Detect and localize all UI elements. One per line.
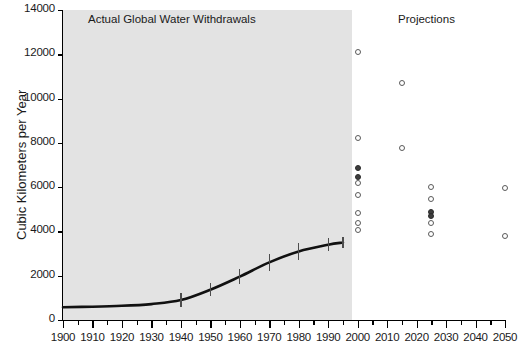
projection-data-point: [428, 213, 434, 219]
x-tick-label: 2050: [485, 331, 518, 343]
water-withdrawals-chart: Actual Global Water Withdrawals Projecti…: [0, 0, 518, 346]
projection-data-point: [355, 210, 361, 216]
y-tick-mark: [58, 54, 63, 55]
projection-data-point: [355, 165, 361, 171]
x-tick-mark-minor: [431, 321, 432, 325]
x-tick-mark-major: [122, 321, 123, 328]
y-tick-mark: [58, 187, 63, 188]
y-tick-mark: [58, 143, 63, 144]
x-tick-mark-minor: [402, 321, 403, 325]
x-tick-mark-minor: [166, 321, 167, 325]
error-bar: [342, 237, 343, 248]
x-tick-mark-minor: [225, 321, 226, 325]
x-tick-mark-minor: [137, 321, 138, 325]
projection-data-point: [355, 227, 361, 233]
x-tick-mark-major: [181, 321, 182, 328]
error-bar: [328, 238, 329, 251]
x-tick-mark-minor: [196, 321, 197, 325]
error-bar: [180, 293, 181, 306]
projection-data-point: [355, 180, 361, 186]
projection-data-point: [355, 135, 361, 141]
x-tick-mark-major: [328, 321, 329, 328]
x-tick-mark-major: [476, 321, 477, 328]
y-tick-label: 12000: [7, 46, 55, 58]
projection-data-point: [428, 184, 434, 190]
projection-data-point: [399, 145, 405, 151]
y-tick-label: 14000: [7, 2, 55, 14]
x-tick-mark-minor: [313, 321, 314, 325]
y-tick-mark: [58, 99, 63, 100]
x-tick-mark-minor: [372, 321, 373, 325]
projection-data-point: [428, 196, 434, 202]
x-tick-mark-major: [299, 321, 300, 328]
y-tick-mark: [58, 276, 63, 277]
x-tick-mark-minor: [461, 321, 462, 325]
projection-data-point: [428, 231, 434, 237]
y-tick-mark: [58, 231, 63, 232]
projection-data-point: [399, 80, 405, 86]
projection-data-point: [502, 185, 508, 191]
projection-data-point: [502, 233, 508, 239]
projection-region-title: Projections: [398, 13, 455, 25]
x-tick-mark-minor: [78, 321, 79, 325]
x-tick-mark-major: [210, 321, 211, 328]
x-tick-mark-major: [417, 321, 418, 328]
error-bar: [210, 283, 211, 296]
actual-region-shading: [63, 10, 352, 320]
x-tick-mark-minor: [343, 321, 344, 325]
x-tick-mark-minor: [284, 321, 285, 325]
y-axis-line: [62, 10, 63, 321]
y-tick-mark: [58, 10, 63, 11]
x-tick-mark-major: [92, 321, 93, 328]
y-axis-title: Cubic Kilometers per Year: [14, 90, 29, 240]
y-tick-label: 8000: [7, 135, 55, 147]
x-tick-mark-major: [269, 321, 270, 328]
y-tick-label: 6000: [7, 179, 55, 191]
x-tick-mark-minor: [255, 321, 256, 325]
projection-data-point: [355, 192, 361, 198]
y-tick-label: 4000: [7, 223, 55, 235]
x-tick-mark-major: [358, 321, 359, 328]
x-tick-mark-major: [240, 321, 241, 328]
actual-region-title: Actual Global Water Withdrawals: [88, 13, 256, 25]
projection-data-point: [355, 220, 361, 226]
x-tick-mark-minor: [107, 321, 108, 325]
error-bar: [239, 269, 240, 285]
error-bar: [269, 254, 270, 272]
x-tick-mark-major: [387, 321, 388, 328]
x-tick-mark-major: [446, 321, 447, 328]
x-tick-mark-major: [505, 321, 506, 328]
x-tick-mark-minor: [490, 321, 491, 325]
error-bar: [298, 243, 299, 261]
y-tick-label: 2000: [7, 268, 55, 280]
x-tick-mark-major: [151, 321, 152, 328]
x-tick-mark-major: [63, 321, 64, 328]
y-tick-label: 0: [7, 312, 55, 324]
projection-data-point: [355, 49, 361, 55]
projection-data-point: [428, 220, 434, 226]
y-tick-label: 10000: [7, 91, 55, 103]
